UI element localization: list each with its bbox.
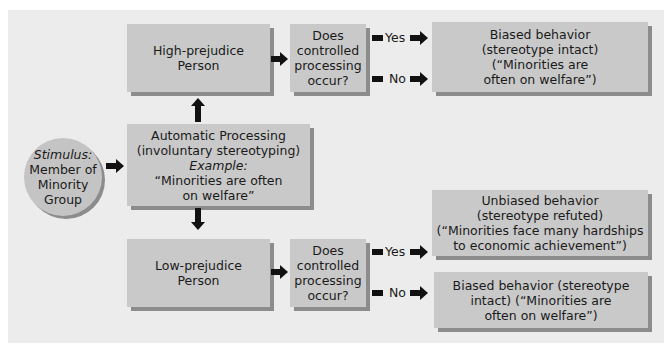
automatic-line: (involuntary stereotyping) [137, 143, 300, 158]
diagram-panel: Stimulus: Member of Minority Group Autom… [8, 10, 664, 343]
person-line: Low-prejudice [155, 258, 242, 273]
person-line: Person [155, 273, 242, 288]
stimulus-line: Minority [38, 177, 89, 192]
outcome-line: Biased behavior [482, 27, 599, 42]
question-line: Does [294, 28, 361, 43]
question-line: processing [294, 58, 361, 73]
low-no-stub [372, 290, 383, 296]
question-line: occur? [294, 288, 361, 303]
question-line: controlled [294, 258, 361, 273]
example-label: Example: [137, 158, 300, 173]
high-no-label: No [389, 72, 406, 86]
automatic-line: Automatic Processing [137, 128, 300, 143]
outcome-line: often on welfare”) [482, 72, 599, 87]
low-yes-outcome-box: Unbiased behavior (stereotype refuted) (… [432, 190, 648, 256]
low-question-box: Does controlled processing occur? [290, 239, 366, 307]
low-yes-label: Yes [385, 245, 405, 259]
person-line: Person [153, 58, 244, 73]
stimulus-label: Stimulus: [34, 147, 93, 162]
outcome-line: Biased behavior (stereotype [453, 278, 630, 293]
stimulus-circle: Stimulus: Member of Minority Group [24, 138, 102, 216]
high-prejudice-person-box: High-prejudice Person [127, 24, 270, 92]
high-yes-stub [372, 35, 383, 41]
question-line: controlled [294, 43, 361, 58]
question-line: occur? [294, 73, 361, 88]
outcome-line: (“Minorities face many hardships [437, 223, 644, 238]
high-yes-label: Yes [385, 31, 405, 45]
outcome-line: (“Minorities are [482, 57, 599, 72]
low-no-label: No [389, 286, 406, 300]
example-line: on welfare” [137, 188, 300, 203]
high-no-stub [372, 76, 383, 82]
low-yes-stub [372, 249, 383, 255]
stimulus-line: Group [44, 192, 82, 207]
stimulus-line: Member of [29, 162, 96, 177]
outcome-line: intact) (“Minorities are [453, 293, 630, 308]
outcome-line: often on welfare”) [453, 308, 630, 323]
high-outcome-box: Biased behavior (stereotype intact) (“Mi… [432, 22, 648, 92]
person-line: High-prejudice [153, 43, 244, 58]
high-question-box: Does controlled processing occur? [290, 24, 366, 92]
example-line: “Minorities are often [137, 173, 300, 188]
outcome-line: (stereotype refuted) [437, 208, 644, 223]
outcome-line: Unbiased behavior [437, 193, 644, 208]
outcome-line: (stereotype intact) [482, 42, 599, 57]
low-prejudice-person-box: Low-prejudice Person [127, 239, 270, 307]
question-line: Does [294, 243, 361, 258]
low-no-outcome-box: Biased behavior (stereotype intact) (“Mi… [434, 272, 648, 328]
automatic-processing-box: Automatic Processing (involuntary stereo… [127, 124, 310, 206]
outcome-line: to economic achievement”) [437, 238, 644, 253]
question-line: processing [294, 273, 361, 288]
